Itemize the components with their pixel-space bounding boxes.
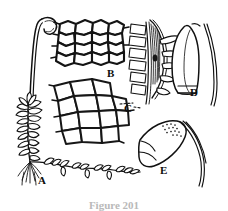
figure-label-e: E: [160, 165, 167, 176]
figure-label-b: B: [107, 68, 114, 79]
figure-label-c: C: [124, 103, 132, 114]
illustration-canvas: [0, 0, 228, 211]
seta-erect: [30, 19, 45, 104]
stolon-creeping: [30, 158, 140, 179]
capsule-a: [42, 18, 57, 35]
leafy-shoot-erect: [16, 92, 42, 162]
panel-e-capsule-ovoid: [139, 121, 206, 187]
figure-caption: Figure 201: [0, 199, 228, 211]
figure-label-d: D: [190, 87, 198, 98]
figure-plate: A B C D E Figure 201: [0, 0, 228, 211]
figure-label-a: A: [38, 175, 46, 186]
panel-b-upper-cells: [51, 20, 129, 66]
